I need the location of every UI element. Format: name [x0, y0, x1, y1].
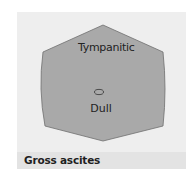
caption-band: Gross ascites — [17, 152, 186, 169]
tympanitic-region-label: Tympanitic — [78, 42, 128, 53]
figure-caption: Gross ascites — [24, 155, 100, 166]
dull-region-label: Dull — [88, 103, 114, 114]
